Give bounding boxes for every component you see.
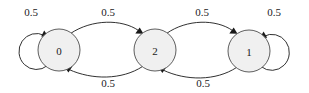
state-transition-diagram: 0 2 1 0.5 0.5 0.5 0.5 0.5 0.5 (0, 0, 309, 93)
edge-label-self-loop-state-1: 0.5 (267, 6, 281, 18)
node-state-2[interactable]: 2 (134, 29, 176, 71)
edge-state-2-to-state-0 (64, 66, 142, 77)
arrowhead-into-state-1-top (229, 28, 237, 34)
node-state-1-label: 1 (246, 46, 252, 58)
edge-state-0-to-state-2 (71, 22, 144, 34)
edge-label-state-2-to-state-0: 0.5 (101, 77, 115, 89)
diagram-canvas: 0 2 1 0.5 0.5 0.5 0.5 0.5 0.5 (0, 0, 309, 93)
node-state-1[interactable]: 1 (228, 30, 270, 72)
edge-state-2-to-state-1 (167, 22, 238, 34)
edge-state-2-to-state-0-path (69, 67, 143, 78)
edge-state-2-to-state-1-path (167, 22, 233, 33)
node-state-0[interactable]: 0 (38, 29, 80, 71)
edge-state-0-to-state-2-path (71, 22, 139, 33)
node-state-2-label: 2 (152, 45, 158, 57)
edge-label-state-1-to-state-2: 0.5 (196, 77, 210, 89)
edge-label-state-2-to-state-1: 0.5 (195, 6, 209, 18)
edge-label-self-loop-state-0: 0.5 (24, 6, 38, 18)
node-state-0-label: 0 (56, 45, 62, 57)
edge-label-state-0-to-state-2: 0.5 (101, 6, 115, 18)
